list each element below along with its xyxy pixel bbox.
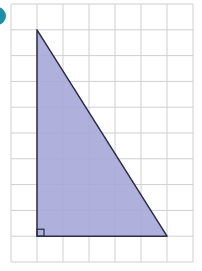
grid-diagram (0, 0, 202, 271)
label-marker-icon (0, 7, 6, 25)
